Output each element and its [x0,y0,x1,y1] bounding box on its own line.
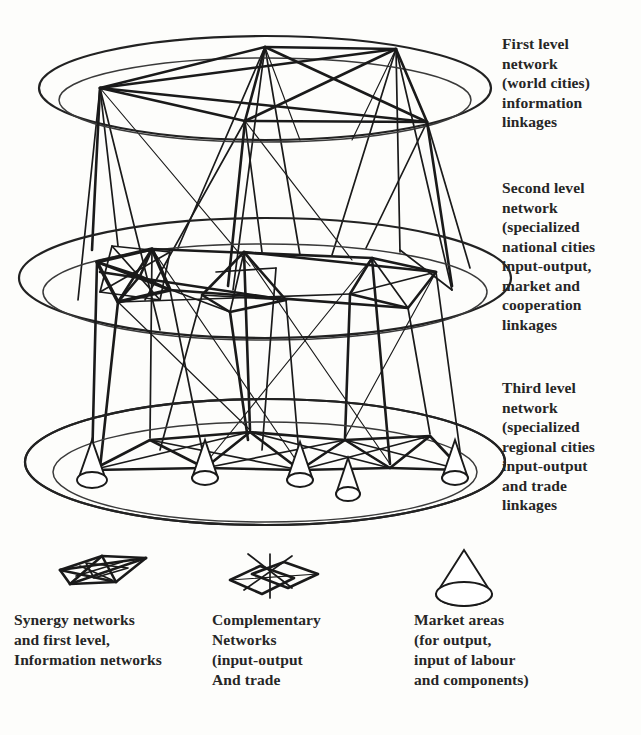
legend-item-complementary: Complementary Networks (input-output And… [212,548,382,690]
legend-caption-complementary: Complementary Networks (input-output And… [212,610,382,690]
market-cone [336,458,360,501]
synergy-network-icon-wrap [56,548,204,610]
legend-item-market: Market areas (for output, input of labou… [414,548,614,690]
legend: Synergy networks and first level, Inform… [0,548,641,735]
third-level-label: Third level network (specialized regiona… [502,378,641,515]
legend-item-synergy: Synergy networks and first level, Inform… [14,548,204,670]
cone-icon [426,548,502,610]
third-level-network [92,432,462,470]
figure-root: First level network (world cities) infor… [0,0,641,735]
legend-caption-synergy: Synergy networks and first level, Inform… [14,610,204,670]
second-level-label: Second level network (specialized nation… [502,178,641,334]
market-cone-icon-wrap [426,548,614,610]
overlapping-quadrilateral-network-icon [222,548,332,604]
market-cone [442,440,468,485]
flattened-mesh-network-icon [56,548,152,596]
legend-caption-market: Market areas (for output, input of labou… [414,610,614,690]
first-level-label: First level network (world cities) infor… [502,34,641,132]
complementary-network-icon-wrap [222,548,382,610]
